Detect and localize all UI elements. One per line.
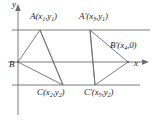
vertex-dot-B (17, 61, 19, 63)
y-axis-label: y (12, 0, 16, 9)
point-label-C-prime-x-sub: 5 (99, 92, 102, 98)
point-label-C: C(x2,y2) (37, 88, 65, 97)
point-label-A-prime-x-sub: 3 (93, 16, 96, 22)
point-label-C-prime-x: x (95, 87, 99, 97)
y-axis-arrow-icon (15, 4, 21, 11)
segment-Ap-Cp (90, 30, 95, 85)
point-label-C-y-sub: 2 (59, 92, 62, 98)
point-label-A: A(x1,y1) (30, 12, 57, 21)
point-label-B-prime: B′(x4,0) (110, 41, 136, 50)
segment-A-C (40, 30, 63, 85)
point-label-A-prime: A′(x3,y1) (79, 12, 108, 21)
x-axis-label: x (134, 59, 138, 68)
point-label-C-prime-close: ) (110, 87, 113, 97)
triangle-ApBpCp (90, 30, 128, 85)
coordinate-plane-figure (0, 0, 155, 122)
x-axis-arrow-icon (142, 59, 149, 65)
geometry-diagram-canvas: A(x1,y1) A′(x3,y1) B′(x4,0) B C(x2,y2) C… (0, 0, 155, 122)
vertex-dot-Bp (127, 61, 129, 63)
point-label-C-prime-y: y (104, 87, 108, 97)
point-label-C-prime: C′(x5,y2) (84, 88, 113, 97)
point-label-B-prime-x-sub: 4 (124, 45, 127, 51)
point-label-B-name: B (9, 59, 14, 69)
point-label-C-x-sub: 2 (50, 92, 53, 98)
point-label-C-close: ) (62, 87, 65, 97)
triangle-ABC (18, 30, 63, 85)
point-label-A-x-sub: 1 (42, 16, 45, 22)
point-label-A-close: ) (54, 11, 57, 21)
point-label-B: B (9, 60, 14, 69)
point-label-B-prime-close: ) (134, 40, 137, 50)
point-label-A-y-sub: 1 (51, 16, 54, 22)
point-label-A-prime-close: ) (105, 11, 108, 21)
point-label-A-prime-y-sub: 1 (102, 16, 105, 22)
